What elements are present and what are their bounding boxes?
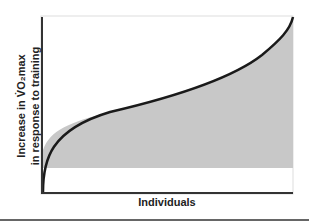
y-axis-label-line1: Increase in V̇O₂max [14, 16, 28, 196]
shaded-area [43, 17, 293, 168]
bottom-rule [0, 219, 309, 221]
x-axis-label: Individuals [41, 196, 293, 208]
y-axis-label-line2: in response to training [28, 16, 42, 196]
y-axis-label: Increase in V̇O₂max in response to train… [14, 16, 42, 196]
chart [0, 0, 309, 223]
